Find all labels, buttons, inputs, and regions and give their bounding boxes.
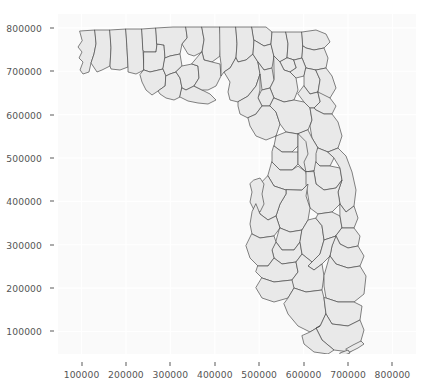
y-tick-label: 400000 bbox=[6, 196, 42, 207]
y-tick-label: 200000 bbox=[6, 283, 42, 294]
x-tick-label: 300000 bbox=[153, 369, 189, 380]
y-tick-mark bbox=[50, 71, 54, 72]
y-tick-mark bbox=[50, 331, 54, 332]
y-tick-label: 800000 bbox=[6, 22, 42, 33]
y-axis-labels: 8000007000006000005000004000003000002000… bbox=[0, 0, 54, 392]
y-tick-label: 500000 bbox=[6, 152, 42, 163]
x-tick-mark bbox=[348, 362, 349, 366]
y-tick-label: 700000 bbox=[6, 66, 42, 77]
x-tick-label: 700000 bbox=[330, 369, 366, 380]
x-tick-label: 500000 bbox=[241, 369, 277, 380]
florida-county-map bbox=[58, 14, 416, 354]
x-tick-mark bbox=[259, 362, 260, 366]
plot-panel bbox=[58, 14, 416, 354]
x-tick-label: 800000 bbox=[375, 369, 411, 380]
y-tick-label: 600000 bbox=[6, 109, 42, 120]
county-polygons bbox=[78, 27, 366, 354]
x-tick-mark bbox=[214, 362, 215, 366]
x-tick-label: 100000 bbox=[64, 369, 100, 380]
x-tick-mark bbox=[81, 362, 82, 366]
x-tick-mark bbox=[125, 362, 126, 366]
x-axis-labels: 1000002000003000004000005000006000007000… bbox=[0, 362, 424, 386]
y-tick-mark bbox=[50, 201, 54, 202]
y-tick-mark bbox=[50, 244, 54, 245]
y-tick-label: 300000 bbox=[6, 239, 42, 250]
x-tick-mark bbox=[170, 362, 171, 366]
x-tick-mark bbox=[392, 362, 393, 366]
y-tick-mark bbox=[50, 114, 54, 115]
x-tick-label: 400000 bbox=[197, 369, 233, 380]
y-tick-mark bbox=[50, 27, 54, 28]
x-tick-mark bbox=[303, 362, 304, 366]
x-tick-label: 600000 bbox=[286, 369, 322, 380]
x-tick-label: 200000 bbox=[108, 369, 144, 380]
y-tick-label: 100000 bbox=[6, 326, 42, 337]
y-tick-mark bbox=[50, 157, 54, 158]
y-tick-mark bbox=[50, 288, 54, 289]
figure-canvas: 8000007000006000005000004000003000002000… bbox=[0, 0, 424, 392]
